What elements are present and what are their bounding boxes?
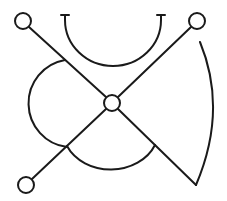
bottom-arc <box>67 145 155 170</box>
right-arc <box>196 42 213 185</box>
line-art-diagram <box>0 0 227 201</box>
bottom-left-node <box>18 177 34 193</box>
diagonal-bottom-right-segment <box>118 109 196 185</box>
diagram-canvas <box>0 0 227 201</box>
top-u-arc <box>61 15 165 66</box>
diagonal-bottom-left-segment <box>32 109 106 179</box>
top-left-node <box>15 13 31 29</box>
center-node <box>104 95 120 111</box>
diagonal-top-right-segment <box>118 27 191 97</box>
top-right-node <box>189 13 205 29</box>
left-arc <box>29 60 67 147</box>
